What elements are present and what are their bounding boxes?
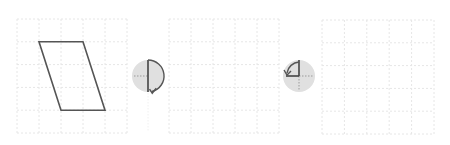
rotation-diagram [0,0,450,145]
grid-panel-start [17,19,127,133]
grid-panel-middle [169,19,279,133]
rotate-180-clockwise-icon [132,60,164,131]
parallelogram-shape [39,42,105,110]
grid-panel-end [322,20,434,134]
rotate-90-counterclockwise-icon [283,60,315,92]
